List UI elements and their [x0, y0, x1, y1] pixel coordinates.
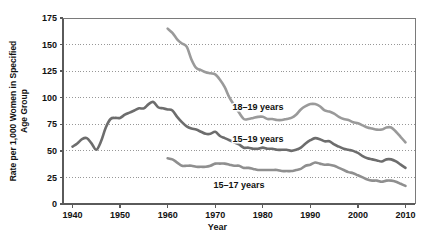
x-axis-title: Year	[0, 222, 435, 232]
chart-plot: 0255075100125150175 19401950196019701980…	[0, 0, 435, 244]
y-tick-label-100: 100	[42, 93, 57, 103]
series-1-line	[168, 29, 406, 143]
x-tick-label-2000: 2000	[348, 210, 368, 220]
x-tick-label-1960: 1960	[158, 210, 178, 220]
series-label-2: 15–19 years	[232, 134, 283, 144]
teen-birth-rate-chart-figure: Rate per 1,000 Women in Specified Age Gr…	[0, 0, 435, 244]
series-label-3: 15–17 years	[213, 180, 264, 190]
y-tick-group: 0255075100125150175	[42, 13, 63, 209]
x-tick-label-1990: 1990	[300, 210, 320, 220]
x-tick-label-1950: 1950	[110, 210, 130, 220]
x-tick-label-1970: 1970	[205, 210, 225, 220]
gridlines-group	[63, 18, 415, 177]
series-1-halo	[168, 29, 406, 143]
y-tick-label-25: 25	[47, 173, 57, 183]
x-tick-label-2010: 2010	[395, 210, 415, 220]
y-tick-label-175: 175	[42, 13, 57, 23]
x-tick-label-1980: 1980	[253, 210, 273, 220]
series-label-1: 18–19 years	[232, 102, 283, 112]
y-tick-label-0: 0	[52, 199, 57, 209]
x-tick-label-1940: 1940	[62, 210, 82, 220]
x-tick-group: 19401950196019701980199020002010	[62, 204, 415, 220]
y-tick-label-150: 150	[42, 40, 57, 50]
y-tick-label-50: 50	[47, 146, 57, 156]
y-tick-label-125: 125	[42, 66, 57, 76]
y-tick-label-75: 75	[47, 119, 57, 129]
